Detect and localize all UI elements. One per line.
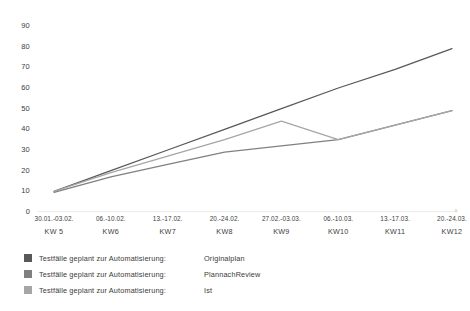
line-chart: 9080706050403020100 30.01.-03.02.KW 506.… [0, 0, 470, 311]
x-axis-tick-date: 13.-17.03. [365, 214, 425, 224]
y-axis-tick: 30 [0, 146, 30, 154]
x-axis-tick: 20.-24.03.KW12 [422, 214, 470, 237]
x-axis-tick-date: 27.02.-03.03. [251, 214, 311, 224]
x-axis-tick: 20.-24.02.KW8 [195, 214, 255, 237]
plot-svg [38, 26, 458, 212]
x-axis-tick-week: KW7 [138, 227, 198, 237]
legend-swatch-icon [24, 254, 32, 262]
x-axis-tick-date: 30.01.-03.02. [24, 214, 84, 224]
x-axis-tick-date: 06.-10.03. [308, 214, 368, 224]
x-axis-tick-week: KW 5 [24, 227, 84, 237]
y-axis-tick: 70 [0, 63, 30, 71]
y-axis-tick: 10 [0, 187, 30, 195]
y-axis-tick: 20 [0, 167, 30, 175]
plot-area [38, 26, 458, 212]
y-axis-tick: 50 [0, 105, 30, 113]
x-axis-tick-date: 20.-24.02. [195, 214, 255, 224]
y-axis-tick: 90 [0, 22, 30, 30]
x-axis-tick-week: KW8 [195, 227, 255, 237]
x-axis-tick: 30.01.-03.02.KW 5 [24, 214, 84, 237]
series-line [54, 111, 452, 192]
x-axis-tick: 06.-10.02.KW6 [81, 214, 141, 237]
x-axis-tick-week: KW12 [422, 227, 470, 237]
x-axis-labels: 30.01.-03.02.KW 506.-10.02.KW613.-17.02.… [38, 214, 458, 240]
x-axis-tick-week: KW11 [365, 227, 425, 237]
x-axis-tick-date: 20.-24.03. [422, 214, 470, 224]
x-axis-tick: 27.02.-03.03.KW9 [251, 214, 311, 237]
series-line [54, 49, 452, 192]
x-axis-tick-week: KW10 [308, 227, 368, 237]
x-axis-tick: 13.-17.02.KW7 [138, 214, 198, 237]
legend-item[interactable]: Testfälle geplant zur Automatisierung:Is… [24, 282, 324, 298]
legend-series-name: PlannachReview [204, 270, 260, 279]
legend-item[interactable]: Testfälle geplant zur Automatisierung:Or… [24, 250, 324, 266]
series-line [54, 111, 452, 193]
legend-swatch-icon [24, 286, 32, 294]
legend-series-name: Ist [204, 286, 212, 295]
x-axis-tick-week: KW6 [81, 227, 141, 237]
legend-item[interactable]: Testfälle geplant zur Automatisierung:Pl… [24, 266, 324, 282]
y-axis-tick: 60 [0, 84, 30, 92]
y-axis-tick: 80 [0, 43, 30, 51]
legend-series-name: Originalplan [204, 254, 245, 263]
x-axis-tick: 06.-10.03.KW10 [308, 214, 368, 237]
x-axis-tick: 13.-17.03.KW11 [365, 214, 425, 237]
legend-label: Testfälle geplant zur Automatisierung: [39, 254, 166, 263]
legend-label: Testfälle geplant zur Automatisierung: [39, 270, 166, 279]
chart-legend: Testfälle geplant zur Automatisierung:Or… [24, 250, 324, 298]
legend-swatch-icon [24, 270, 32, 278]
legend-label: Testfälle geplant zur Automatisierung: [39, 286, 166, 295]
x-axis-tick-week: KW9 [251, 227, 311, 237]
x-axis-tick-date: 13.-17.02. [138, 214, 198, 224]
y-axis-tick: 40 [0, 125, 30, 133]
series-lines [54, 49, 452, 193]
x-axis-tick-date: 06.-10.02. [81, 214, 141, 224]
